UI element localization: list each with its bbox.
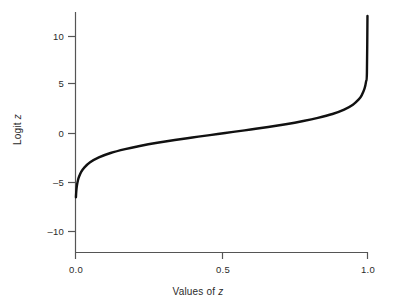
y-axis-label-variable: z: [12, 114, 23, 119]
y-tick-label-minus10: –10: [38, 226, 64, 237]
y-axis-label-text: Logit: [12, 122, 23, 145]
y-tick-label-0: 0: [38, 128, 64, 139]
logit-curve: [76, 16, 368, 197]
chart-figure: 10 5 0 –5 –10 0.0 0.5 1.0 Values of z Lo…: [0, 0, 396, 308]
y-axis-label: Logit z: [12, 95, 23, 165]
x-axis-label-text: Values of: [173, 286, 216, 297]
x-tick-label-1: 1.0: [352, 264, 384, 275]
x-axis-label: Values of z: [0, 286, 396, 297]
logit-curve-plot: [0, 0, 396, 308]
y-tick-label-10: 10: [38, 31, 64, 42]
x-tick-label-0point5: 0.5: [207, 264, 239, 275]
y-tick-label-5: 5: [38, 78, 64, 89]
y-tick-label-minus5: –5: [38, 177, 64, 188]
x-tick-label-0: 0.0: [60, 264, 92, 275]
x-axis-label-variable: z: [218, 286, 223, 297]
